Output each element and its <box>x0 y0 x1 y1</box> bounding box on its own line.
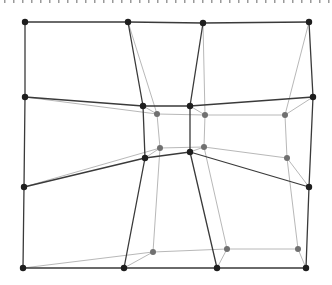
dot-artifact <box>292 0 294 3</box>
dot-artifact <box>94 0 96 3</box>
dot-artifact <box>130 0 132 3</box>
dot-artifact <box>112 0 114 3</box>
dot-artifact <box>85 0 87 3</box>
deformed-node <box>187 149 193 155</box>
original-grid-edges <box>23 22 313 268</box>
dot-artifact <box>157 0 159 3</box>
original-edge <box>217 249 227 268</box>
dot-artifact <box>220 0 222 3</box>
dot-artifact <box>229 0 231 3</box>
deformed-node <box>21 184 27 190</box>
original-edge <box>153 148 160 252</box>
original-edge <box>285 115 287 158</box>
deformed-node <box>125 19 131 25</box>
original-edge <box>157 114 205 115</box>
dot-artifact <box>49 0 51 3</box>
dot-artifact <box>184 0 186 3</box>
deformed-grid-edges <box>23 22 313 268</box>
original-node <box>154 111 160 117</box>
dot-artifact <box>265 0 267 3</box>
original-edge <box>204 115 205 147</box>
original-edge <box>287 158 298 249</box>
original-node <box>201 144 207 150</box>
deformed-edge <box>23 187 24 268</box>
dot-artifact <box>121 0 123 3</box>
deformed-node <box>303 265 309 271</box>
original-edge <box>203 23 205 115</box>
dot-artifact <box>4 0 6 3</box>
dot-artifact <box>211 0 213 3</box>
original-edge <box>124 252 153 268</box>
dot-artifact <box>310 0 312 3</box>
deformed-node <box>22 19 28 25</box>
deformed-edge <box>203 22 309 23</box>
deformed-edge <box>190 152 309 187</box>
deformed-node <box>200 20 206 26</box>
top-edge-dot-artifacts <box>4 0 330 3</box>
dot-artifact <box>103 0 105 3</box>
deformed-edge <box>128 22 203 23</box>
deformed-node <box>140 103 146 109</box>
original-node <box>224 246 230 252</box>
dot-artifact <box>166 0 168 3</box>
dot-artifact <box>283 0 285 3</box>
dot-artifact <box>202 0 204 3</box>
dot-artifact <box>238 0 240 3</box>
original-edge <box>160 147 204 148</box>
original-node <box>150 249 156 255</box>
deformed-node <box>187 103 193 109</box>
dot-artifact <box>319 0 321 3</box>
deformed-edge <box>306 187 309 268</box>
original-grid-nodes <box>150 111 301 255</box>
dot-artifact <box>328 0 330 3</box>
original-node <box>284 155 290 161</box>
dot-artifact <box>175 0 177 3</box>
deformed-node <box>306 184 312 190</box>
original-edge <box>204 147 287 158</box>
dot-artifact <box>67 0 69 3</box>
dot-artifact <box>58 0 60 3</box>
dot-artifact <box>193 0 195 3</box>
dot-artifact <box>247 0 249 3</box>
original-node <box>295 246 301 252</box>
original-edge <box>153 249 227 252</box>
deformed-grid-nodes <box>20 19 316 271</box>
dot-artifact <box>13 0 15 3</box>
original-node <box>157 145 163 151</box>
deformed-node <box>310 94 316 100</box>
deformed-node <box>214 265 220 271</box>
dot-artifact <box>31 0 33 3</box>
dot-artifact <box>148 0 150 3</box>
dot-artifact <box>22 0 24 3</box>
deformed-node <box>121 265 127 271</box>
original-node <box>202 112 208 118</box>
original-edge <box>24 148 160 187</box>
original-edge <box>157 114 160 148</box>
dot-artifact <box>274 0 276 3</box>
original-edge <box>285 22 309 115</box>
deformed-edge <box>309 22 313 97</box>
mesh-deformation-diagram <box>0 0 332 285</box>
deformed-edge <box>190 23 203 106</box>
deformed-edge <box>190 97 313 106</box>
deformed-edge <box>24 158 145 187</box>
deformed-node <box>142 155 148 161</box>
dot-artifact <box>301 0 303 3</box>
deformed-edge <box>124 158 145 268</box>
deformed-node <box>22 94 28 100</box>
dot-artifact <box>40 0 42 3</box>
deformed-edge <box>309 97 313 187</box>
original-node <box>282 112 288 118</box>
dot-artifact <box>139 0 141 3</box>
deformed-edge <box>143 106 145 158</box>
deformed-node <box>20 265 26 271</box>
deformed-node <box>306 19 312 25</box>
original-edge <box>23 252 153 268</box>
deformed-edge <box>24 97 25 187</box>
dot-artifact <box>76 0 78 3</box>
dot-artifact <box>256 0 258 3</box>
